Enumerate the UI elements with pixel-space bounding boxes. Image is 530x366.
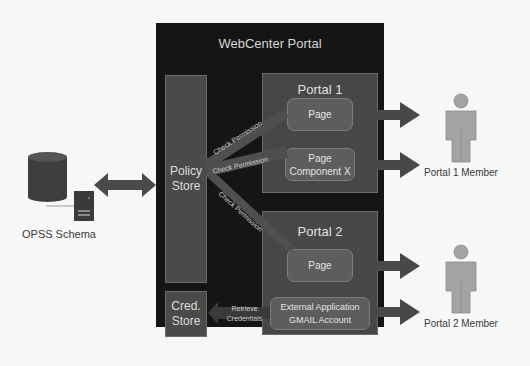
person-icon-portal-1-member bbox=[446, 94, 476, 162]
person-icon-portal-2-member bbox=[446, 245, 476, 313]
member-arrows bbox=[353, 102, 420, 325]
database-icon bbox=[28, 152, 67, 202]
retrieve-credentials-label: Retrieve Credentials bbox=[222, 304, 267, 324]
opss-schema-label: OPSS Schema bbox=[22, 228, 96, 240]
portal-2-member-label: Portal 2 Member bbox=[424, 318, 498, 329]
opss-double-arrow bbox=[94, 173, 156, 197]
portal-1-member-label: Portal 1 Member bbox=[424, 167, 498, 178]
